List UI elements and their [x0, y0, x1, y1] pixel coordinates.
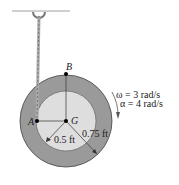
diagram-canvas: B A G 0.5 ft 0.75 ft ω = 3 rad/s α = 4 r… — [0, 0, 179, 185]
label-A: A — [27, 116, 35, 127]
point-G — [64, 119, 68, 123]
label-G: G — [71, 115, 78, 126]
point-B — [64, 72, 68, 76]
point-A — [35, 119, 39, 123]
label-B: B — [66, 61, 72, 72]
label-inner-radius: 0.5 ft — [54, 134, 75, 145]
label-alpha: α = 4 rad/s — [120, 98, 163, 109]
rotation-arrowhead-icon — [116, 112, 120, 119]
label-outer-radius: 0.75 ft — [82, 128, 108, 139]
